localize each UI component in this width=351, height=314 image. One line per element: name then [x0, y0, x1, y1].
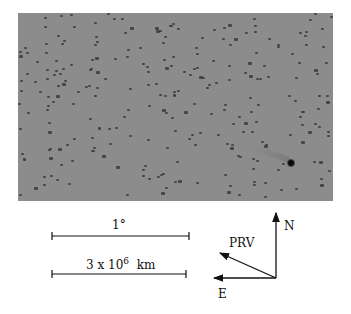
scale-bar-degree-label: 1°	[112, 218, 126, 232]
prv-label: PRV	[229, 236, 254, 250]
km-label-unit: km	[137, 258, 156, 272]
scale-bar-km-label: 3 x 106 km	[86, 256, 155, 272]
km-label-base: 3 x 10	[86, 258, 123, 272]
north-label: N	[284, 219, 295, 233]
km-label-exponent: 6	[123, 256, 129, 266]
east-label: E	[218, 287, 227, 301]
annotations-overlay	[0, 0, 351, 314]
